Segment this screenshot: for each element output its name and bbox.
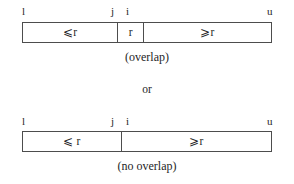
endpoint-label-l-no-overlap: l <box>22 116 25 127</box>
endpoint-label-u-overlap: u <box>267 6 273 17</box>
segment-ge-r-overlap: ⩾r <box>143 23 271 42</box>
segment-label-ge-r-no-overlap: ⩾r <box>189 136 203 148</box>
segment-le-r-overlap: ⩽r <box>23 23 117 42</box>
endpoint-label-j-overlap: j <box>111 6 114 17</box>
endpoint-labels-no-overlap: l j i u <box>0 116 294 128</box>
segment-ge-r-no-overlap: ⩾r <box>121 132 271 151</box>
segment-label-ge-r-overlap: ⩾r <box>200 27 214 39</box>
segment-label-le-r-overlap: ⩽r <box>63 27 77 39</box>
segment-label-r-overlap: r <box>129 27 133 39</box>
endpoint-label-u-no-overlap: u <box>267 116 273 127</box>
endpoint-label-i-overlap: i <box>126 6 129 17</box>
endpoint-labels-overlap: l j i u <box>0 6 294 18</box>
endpoint-label-j-no-overlap: j <box>111 116 114 127</box>
segment-label-le-r-no-overlap: ⩽ r <box>63 136 81 148</box>
connector-or: or <box>0 83 294 95</box>
interval-bar-no-overlap: ⩽ r ⩾r <box>22 131 272 152</box>
interval-bar-overlap: ⩽r r ⩾r <box>22 22 272 43</box>
partition-interval-figure: l j i u ⩽r r ⩾r (overlap) or l j i u ⩽ r… <box>0 0 294 184</box>
segment-le-r-no-overlap: ⩽ r <box>23 132 121 151</box>
segment-r-overlap: r <box>117 23 143 42</box>
endpoint-label-l-overlap: l <box>22 6 25 17</box>
endpoint-label-i-no-overlap: i <box>126 116 129 127</box>
caption-no-overlap: (no overlap) <box>0 160 294 172</box>
caption-overlap: (overlap) <box>0 51 294 63</box>
